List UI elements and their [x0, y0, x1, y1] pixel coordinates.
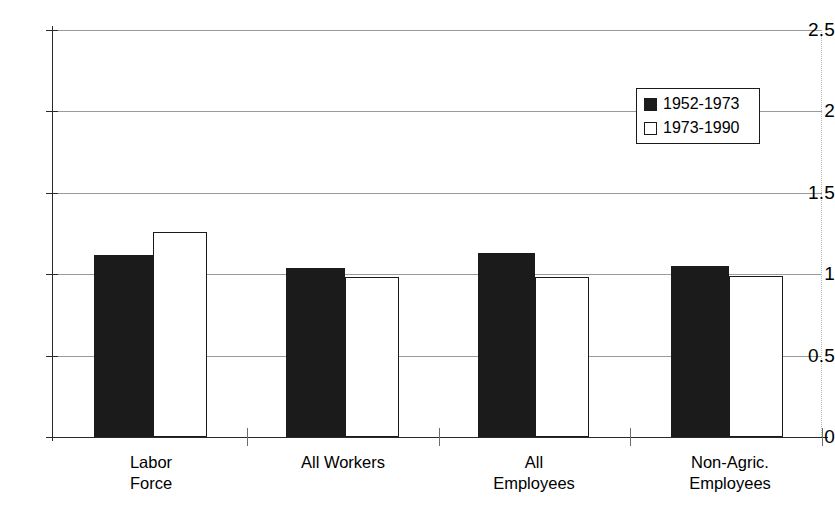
bar-series1-group2: [286, 268, 345, 437]
legend-swatch-hollow-icon: [644, 122, 657, 135]
legend-label-1952-1973: 1952-1973: [663, 96, 740, 112]
legend-swatch-filled-icon: [644, 98, 657, 111]
y-tick-label-1.0: 1: [791, 264, 835, 283]
y-tick-mark-1.0: [46, 274, 58, 275]
bar-series1-group1: [94, 255, 153, 437]
x-category-label-all-employees: All Employees: [473, 452, 595, 494]
x-tick-mark-1: [247, 428, 248, 446]
y-tick-mark-0.5: [46, 356, 58, 357]
bar-series2-group3: [535, 277, 589, 437]
y-tick-label-2.5: 2.5: [791, 20, 835, 39]
y-tick-label-2.0: 2: [791, 101, 835, 120]
y-tick-label-1.5: 1.5: [791, 183, 835, 202]
legend: 1952-1973 1973-1990: [636, 88, 760, 144]
x-tick-mark-3: [630, 428, 631, 446]
bar-series1-group4: [671, 266, 729, 437]
y-tick-label-0.5: 0.5: [791, 346, 835, 365]
y-tick-mark-2.5: [46, 30, 58, 31]
legend-item-1973-1990: 1973-1990: [644, 116, 753, 140]
x-axis-line: [46, 437, 828, 438]
x-category-label-all-workers: All Workers: [282, 452, 404, 473]
y-tick-mark-2.0: [46, 111, 58, 112]
bar-series2-group4: [729, 276, 783, 437]
y-tick-mark-0: [46, 437, 58, 438]
y-tick-mark-1.5: [46, 193, 58, 194]
x-category-label-labor-force: Labor Force: [90, 452, 212, 494]
plot-frame-right: [821, 30, 822, 437]
x-tick-mark-4: [822, 428, 823, 446]
bar-series1-group3: [478, 253, 535, 437]
legend-label-1973-1990: 1973-1990: [663, 120, 740, 136]
x-category-label-non-agric-employees: Non-Agric. Employees: [665, 452, 795, 494]
bar-series2-group1: [153, 232, 207, 437]
bar-chart: 2.5 2 1.5 1 0.5 0 Labor Force All Worker…: [0, 0, 835, 516]
y-axis-line: [52, 26, 53, 441]
bar-series2-group2: [345, 277, 399, 437]
y-tick-label-0: 0: [791, 427, 835, 446]
legend-item-1952-1973: 1952-1973: [644, 92, 753, 116]
x-tick-mark-2: [439, 428, 440, 446]
